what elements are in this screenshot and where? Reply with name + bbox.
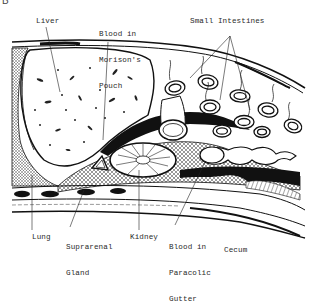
colon [200, 147, 296, 165]
label-line: Gland [66, 269, 113, 278]
label-morisons-pouch: Blood in Morison's Pouch [99, 13, 141, 108]
label-line: Gutter [169, 295, 211, 304]
label-kidney: Kidney [130, 233, 158, 242]
label-line: Blood in [99, 30, 141, 39]
label-line: Blood in [169, 243, 211, 252]
label-lung: Lung [32, 233, 51, 242]
label-liver: Liver [36, 17, 59, 26]
label-small-intestines: Small Intestines [190, 17, 265, 26]
label-line: Pouch [99, 82, 141, 91]
label-line: Morison's [99, 56, 141, 65]
label-suprarenal-gland: Suprarenal Gland [66, 226, 113, 295]
label-line: Paracolic [169, 269, 211, 278]
kidney [110, 143, 176, 177]
label-paracolic-gutter: Blood in Paracolic Gutter [169, 226, 211, 305]
posterior-wall [12, 186, 305, 238]
label-line: Suprarenal [66, 243, 113, 252]
label-cecum: Cecum [224, 246, 247, 255]
duodenum [159, 96, 187, 140]
panel-letter: B [2, 0, 9, 6]
